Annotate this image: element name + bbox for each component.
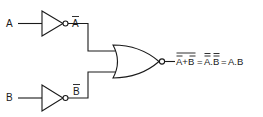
expr-part3: A.B — [228, 56, 243, 67]
expr-eq1: = — [197, 56, 203, 67]
not-gate-b: B — [42, 72, 116, 111]
nor-gate-bubble — [159, 59, 164, 64]
input-b: B — [6, 92, 42, 103]
input-a: A — [6, 18, 42, 29]
not-gate-b-triangle — [42, 85, 63, 111]
b-bar-label: B — [73, 86, 80, 97]
expr-eq2: = — [221, 56, 227, 67]
not-gate-a: A — [42, 11, 115, 51]
input-a-label: A — [6, 18, 13, 29]
not-gate-a-bubble — [63, 21, 68, 26]
input-b-label: B — [6, 92, 13, 103]
nor-gate — [113, 45, 175, 78]
logic-diagram: A A B B A+B = A.B = — [0, 0, 263, 117]
not-gate-a-triangle — [42, 11, 63, 36]
not-gate-b-bubble — [63, 96, 68, 101]
expr-part2: A.B — [204, 56, 219, 67]
output-expression: A+B = A.B = A.B — [176, 53, 243, 67]
nor-gate-body — [113, 45, 159, 78]
expr-part1: A+B — [176, 56, 194, 67]
